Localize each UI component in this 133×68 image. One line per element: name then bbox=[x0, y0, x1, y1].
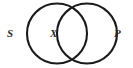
venn-diagram-figure: S X P bbox=[0, 0, 133, 68]
label-subject-s: S bbox=[7, 28, 13, 39]
label-member-x: X bbox=[50, 28, 57, 39]
label-predicate-p: P bbox=[114, 28, 121, 39]
